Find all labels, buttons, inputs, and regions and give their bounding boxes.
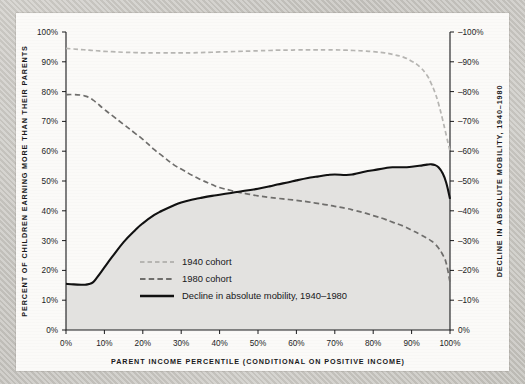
y2-tick-label: –20%: [458, 266, 479, 275]
y2-tick-label: –80%: [458, 88, 479, 97]
x-tick-label: 90%: [403, 339, 419, 348]
x-tick-label: 60%: [288, 339, 304, 348]
legend-label: 1940 cohort: [182, 256, 232, 267]
y-tick-label: 20%: [42, 266, 58, 275]
y2-tick-label: –60%: [458, 147, 479, 156]
y-tick-label: 90%: [42, 58, 58, 67]
x-tick-label: 30%: [173, 339, 189, 348]
legend-label: 1980 cohort: [182, 273, 232, 284]
y-tick-label: 100%: [37, 28, 58, 37]
figure-outer-frame: 0%10%20%30%40%50%60%70%80%90%100% 0%10%2…: [0, 0, 525, 384]
x-tick-label: 0%: [60, 339, 72, 348]
y-tick-label: 10%: [42, 296, 58, 305]
x-tick-label: 50%: [250, 339, 266, 348]
y2-tick-label: –40%: [458, 207, 479, 216]
y-tick-label: 60%: [42, 147, 58, 156]
x-tick-label: 80%: [365, 339, 381, 348]
y-tick-label: 40%: [42, 207, 58, 216]
y-tick-label: 50%: [42, 177, 58, 186]
x-tick-label: 100%: [440, 339, 461, 348]
x-axis-title: PARENT INCOME PERCENTILE (CONDITIONAL ON…: [111, 357, 405, 366]
legend-label: Decline in absolute mobility, 1940–1980: [182, 290, 347, 301]
y-tick-label: 70%: [42, 117, 58, 126]
y-axis-tick-labels: 0%10%20%30%40%50%60%70%80%90%100%: [37, 28, 58, 335]
x-axis-tick-labels: 0%10%20%30%40%50%60%70%80%90%100%: [60, 339, 460, 348]
chart-canvas: 0%10%20%30%40%50%60%70%80%90%100% 0%10%2…: [0, 0, 525, 384]
y2-axis-title: DECLINE IN ABSOLUTE MOBILITY, 1940–1980: [495, 85, 504, 278]
x-tick-label: 20%: [135, 339, 151, 348]
y-axis-title: PERCENT OF CHILDREN EARNING MORE THAN TH…: [20, 45, 29, 316]
y2-tick-label: 0%: [458, 326, 470, 335]
y-tick-label: 0%: [46, 326, 58, 335]
x-tick-label: 70%: [327, 339, 343, 348]
y2-tick-label: –10%: [458, 296, 479, 305]
y2-tick-label: –30%: [458, 237, 479, 246]
y2-tick-label: –100%: [458, 28, 484, 37]
y-tick-label: 30%: [42, 237, 58, 246]
y-tick-label: 80%: [42, 88, 58, 97]
y2-tick-label: –50%: [458, 177, 479, 186]
x-tick-label: 40%: [211, 339, 227, 348]
y2-axis-tick-labels: 0%–10%–20%–30%–40%–50%–60%–70%–80%–90%–1…: [458, 28, 484, 335]
x-tick-label: 10%: [96, 339, 112, 348]
y2-tick-label: –70%: [458, 117, 479, 126]
series-line-1: [66, 48, 450, 151]
y2-tick-label: –90%: [458, 58, 479, 67]
